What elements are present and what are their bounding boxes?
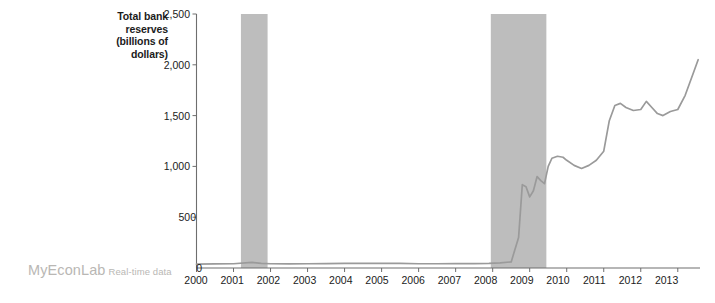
x-tick-label-2006: 2006 [393, 275, 433, 286]
y-axis-title-line-2: reserves [88, 23, 168, 36]
axis-layer [193, 14, 701, 272]
x-tick-label-2009: 2009 [502, 275, 542, 286]
y-tick-label-2500: 2,500 [146, 9, 190, 20]
chart-container: Total bank reserves (billions of dollars… [0, 0, 715, 303]
x-tick-label-2010: 2010 [538, 275, 578, 286]
recession-2001-band [241, 14, 268, 268]
x-tick-label-2000: 2000 [176, 275, 216, 286]
x-tick-label-2002: 2002 [248, 275, 288, 286]
y-tick-label-2000: 2,000 [146, 60, 190, 71]
x-tick-label-2004: 2004 [321, 275, 361, 286]
x-tick-label-2005: 2005 [357, 275, 397, 286]
x-tick-label-2003: 2003 [285, 275, 325, 286]
x-tick-label-2012: 2012 [610, 275, 650, 286]
x-tick-label-2008: 2008 [466, 275, 506, 286]
watermark-subtitle: Real-time data [108, 266, 171, 277]
y-tick-label-1500: 1,500 [146, 111, 190, 122]
myeconlab-watermark: MyEconLabReal-time data [28, 261, 172, 279]
y-axis-title-line-4: dollars) [88, 48, 168, 61]
watermark-brand: MyEconLab [28, 262, 105, 278]
x-tick-label-2011: 2011 [574, 275, 614, 286]
x-tick-label-2007: 2007 [429, 275, 469, 286]
reserves-line [197, 60, 699, 264]
x-tick-label-2013: 2013 [647, 275, 687, 286]
y-axis-title-line-3: (billions of [88, 35, 168, 48]
y-tick-label-500: 500 [152, 212, 196, 223]
y-tick-label-1000: 1,000 [146, 161, 190, 172]
recession-shading-layer [241, 14, 546, 268]
x-tick-label-2001: 2001 [212, 275, 252, 286]
